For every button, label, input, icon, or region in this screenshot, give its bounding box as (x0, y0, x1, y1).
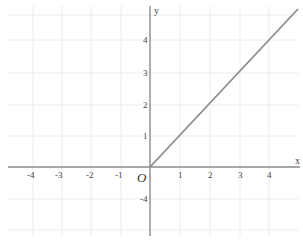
x-tick-label: -2 (86, 170, 94, 180)
x-tick-label: 1 (178, 170, 183, 180)
y-tick-label: 1 (143, 131, 148, 141)
x-tick-label: -4 (27, 170, 35, 180)
x-tick-label: -1 (115, 170, 123, 180)
y-tick-label: 2 (143, 100, 148, 110)
y-tick-label: 3 (143, 68, 148, 78)
x-tick-label: -3 (55, 170, 63, 180)
x-tick-label: 2 (208, 170, 213, 180)
x-tick-label: 3 (238, 170, 243, 180)
y-tick-label-negative: -4 (140, 194, 148, 204)
origin-label: O (137, 170, 147, 185)
grid (8, 6, 298, 236)
x-tick-label: 4 (267, 170, 272, 180)
function-graph (150, 9, 298, 167)
y-axis-label: y (154, 5, 159, 16)
x-axis-label: x (295, 155, 300, 166)
y-tick-label: 4 (143, 35, 148, 45)
coordinate-plane: x y O -4 -3 -2 -1 1 2 3 4 1 2 3 4 -4 (0, 0, 303, 241)
